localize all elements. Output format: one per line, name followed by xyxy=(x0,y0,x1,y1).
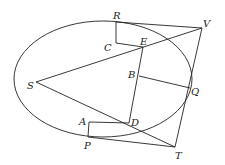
line-BQ xyxy=(139,76,190,88)
label-T: T xyxy=(175,150,183,161)
line-SV xyxy=(36,28,202,82)
label-R: R xyxy=(112,10,121,21)
label-A: A xyxy=(78,116,86,127)
label-B: B xyxy=(127,69,135,80)
label-D: D xyxy=(130,117,139,128)
label-E: E xyxy=(139,36,148,47)
ellipse-geometry-diagram: R V C E B S Q A D P T xyxy=(0,0,225,165)
label-C: C xyxy=(104,42,112,53)
line-RV xyxy=(116,22,202,28)
line-ED xyxy=(129,47,143,123)
label-V: V xyxy=(203,18,212,29)
line-PT xyxy=(88,137,175,147)
label-S: S xyxy=(27,80,34,91)
label-Q: Q xyxy=(191,86,199,97)
ellipse xyxy=(14,21,192,137)
label-P: P xyxy=(83,140,91,151)
perpendicular-PAD xyxy=(88,122,129,137)
